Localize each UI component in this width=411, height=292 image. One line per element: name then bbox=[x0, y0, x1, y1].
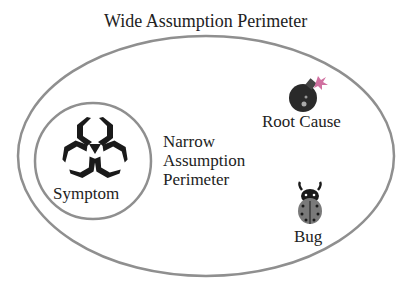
biohazard-icon bbox=[57, 117, 132, 182]
symptom-label: Symptom bbox=[53, 185, 119, 204]
bug-label: Bug bbox=[294, 228, 322, 247]
bomb-icon bbox=[289, 76, 328, 112]
root-cause-label: Root Cause bbox=[262, 113, 341, 132]
ladybug-icon bbox=[298, 182, 322, 224]
narrow-perimeter-label: Narrow Assumption Perimeter bbox=[163, 132, 273, 189]
wide-perimeter-label: Wide Assumption Perimeter bbox=[0, 12, 411, 32]
